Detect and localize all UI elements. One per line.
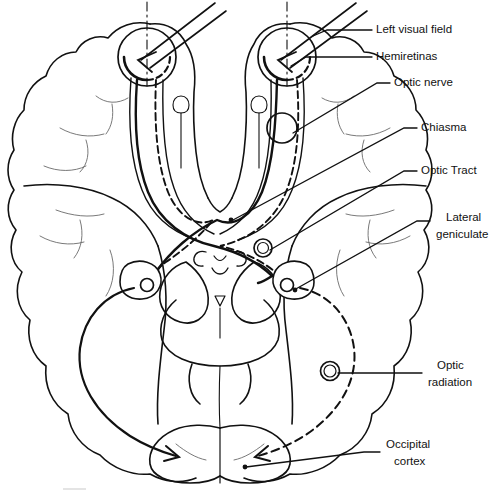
label-optic-radiation-line1: Optic [437,359,464,371]
label-hemiretinas: Hemiretinas [376,50,438,62]
label-optic-nerve: Optic nerve [394,76,453,88]
figure-background [0,0,500,495]
left-lateral-geniculate-body [120,261,161,299]
label-left-visual-field: Left visual field [376,23,452,35]
visual-pathway-figure: Left visual field Hemiretinas Optic nerv… [0,0,500,495]
label-optic-radiation-line2: radiation [428,376,472,388]
label-occipital-cortex-line1: Occipital [386,438,430,450]
label-occipital-cortex-line2: cortex [394,455,426,467]
left-lgn-marker [141,279,154,292]
label-chiasma: Chiasma [421,121,467,133]
label-lateral-geniculate-line2: geniculate [436,228,488,240]
label-optic-tract: Optic Tract [421,164,477,176]
label-lateral-geniculate-line1: Lateral [446,211,481,223]
lateral-geniculate-leader-dot [293,288,298,293]
right-lateral-geniculate-body [273,261,314,299]
right-lgn-marker [281,279,294,292]
left-eye-globe [118,28,176,86]
occipital-leader-dot [243,465,248,470]
